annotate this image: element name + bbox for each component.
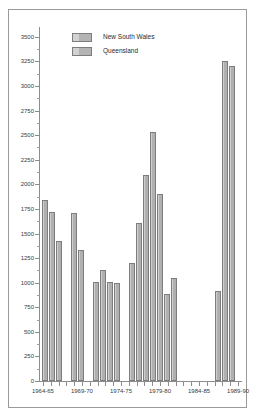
y-axis-tick-label: 3500 <box>8 34 34 40</box>
bar <box>229 66 235 381</box>
x-axis-tick <box>191 382 192 386</box>
bar <box>107 282 113 381</box>
legend-item-new-south-wales: New South Wales <box>72 33 154 42</box>
y-axis-tick-label: 1250 <box>8 255 34 261</box>
x-axis-tick-label: 1984-85 <box>188 388 210 394</box>
chart-frame: 0250500750100012501500175020002250250027… <box>8 9 247 408</box>
y-axis-tick-label: 2750 <box>8 108 34 114</box>
legend-swatch-icon <box>72 47 92 56</box>
bar <box>157 194 163 381</box>
x-axis-tick <box>160 382 161 386</box>
bar <box>215 291 221 381</box>
x-axis-tick <box>105 382 106 386</box>
y-axis-tick-label: 2000 <box>8 181 34 187</box>
x-axis-tick <box>230 382 231 386</box>
x-axis-tick <box>168 382 169 386</box>
y-axis-tick-label: 0 <box>8 378 34 384</box>
x-axis-tick <box>144 382 145 386</box>
x-axis-tick <box>222 382 223 386</box>
bar <box>129 263 135 381</box>
y-axis-tick-label: 250 <box>8 353 34 359</box>
bar <box>164 294 170 381</box>
x-axis-tick <box>183 382 184 386</box>
y-axis-tick-label: 1750 <box>8 206 34 212</box>
bar <box>100 270 106 381</box>
bar <box>171 278 177 381</box>
x-axis-tick-label: 1964-65 <box>32 388 54 394</box>
y-axis-tick-label: 2500 <box>8 132 34 138</box>
bar <box>143 175 149 381</box>
bar <box>93 282 99 381</box>
x-axis-tick <box>215 382 216 386</box>
x-axis-tick <box>176 382 177 386</box>
bar <box>136 223 142 381</box>
x-axis-tick <box>90 382 91 386</box>
x-axis-tick <box>98 382 99 386</box>
x-axis-tick <box>238 382 239 386</box>
x-axis-tick <box>113 382 114 386</box>
x-axis-tick <box>59 382 60 386</box>
x-axis-tick-label: 1979-80 <box>149 388 171 394</box>
legend-label: New South Wales <box>103 34 154 41</box>
x-axis-tick <box>207 382 208 386</box>
x-axis-tick-label: 1969-70 <box>71 388 93 394</box>
x-axis-tick <box>66 382 67 386</box>
bar <box>150 132 156 381</box>
y-axis-tick-label: 750 <box>8 304 34 310</box>
y-axis-tick-label: 1500 <box>8 231 34 237</box>
x-axis-tick <box>51 382 52 386</box>
y-axis-tick-label: 2250 <box>8 157 34 163</box>
bar <box>78 250 84 381</box>
plot-area: 0250500750100012501500175020002250250027… <box>9 10 246 407</box>
legend-label: Queensland <box>103 48 138 55</box>
x-axis-tick <box>152 382 153 386</box>
bar <box>42 200 48 381</box>
bar <box>49 212 55 381</box>
x-axis-tick-label: 1974-75 <box>110 388 132 394</box>
x-axis-tick <box>199 382 200 386</box>
y-axis-tick: 0 <box>35 381 40 382</box>
x-axis-tick-label: 1989-90 <box>227 388 249 394</box>
x-axis-tick <box>82 382 83 386</box>
x-axis-tick <box>121 382 122 386</box>
x-axis-tick <box>74 382 75 386</box>
bar <box>114 283 120 381</box>
bars-layer <box>39 27 242 381</box>
legend-swatch-icon <box>72 33 92 42</box>
chart-legend: New South Wales Queensland <box>72 33 154 61</box>
legend-item-queensland: Queensland <box>72 47 154 56</box>
bar <box>71 213 77 381</box>
y-axis-tick-label: 3000 <box>8 83 34 89</box>
y-axis-tick-label: 500 <box>8 329 34 335</box>
x-axis-tick <box>129 382 130 386</box>
x-axis-tick <box>137 382 138 386</box>
x-axis-line <box>39 381 242 382</box>
bar <box>222 61 228 381</box>
x-axis-tick <box>43 382 44 386</box>
bar <box>56 241 62 381</box>
y-axis-tick-label: 1000 <box>8 280 34 286</box>
y-axis-tick-label: 3250 <box>8 58 34 64</box>
